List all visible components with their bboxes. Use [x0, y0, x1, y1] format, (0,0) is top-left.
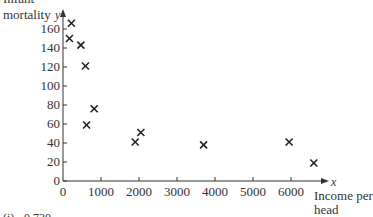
data-point-x-marker-icon: [310, 159, 317, 166]
y-axis-label-line2: mortality: [3, 7, 51, 22]
y-axis-label-line1: Infant: [3, 0, 34, 6]
y-axis-arrow-icon: [60, 9, 66, 17]
y-tick-label: 100: [41, 78, 61, 93]
data-points: [66, 20, 317, 167]
y-tick-label: 140: [41, 40, 61, 55]
y-tick-label: 40: [47, 135, 60, 150]
y-tick-label: 80: [47, 97, 60, 112]
data-point-x-marker-icon: [91, 105, 98, 112]
data-point-x-marker-icon: [200, 141, 207, 148]
axes: [60, 9, 329, 184]
x-tick-label: 5000: [240, 184, 266, 199]
x-tick-label: 2000: [126, 184, 152, 199]
y-tick-label: 160: [41, 21, 61, 36]
x-axis-variable: x: [330, 175, 337, 189]
y-tick-label: 20: [47, 154, 60, 169]
x-tick-label: 3000: [164, 184, 190, 199]
data-point-x-marker-icon: [66, 35, 73, 42]
data-point-x-marker-icon: [83, 121, 90, 128]
x-axis-arrow-icon: [321, 178, 329, 184]
x-tick-label: 0: [60, 184, 67, 199]
y-tick-label: 120: [41, 59, 61, 74]
x-tick-label: 4000: [202, 184, 228, 199]
data-point-x-marker-icon: [77, 42, 84, 49]
footer-note: (i) −0.730: [3, 211, 51, 217]
scatter-chart: Infant mortality y 020406080100120140160…: [0, 0, 373, 217]
data-point-x-marker-icon: [286, 139, 293, 146]
x-axis-label-line1: Income per: [314, 188, 373, 203]
y-axis-variable: y: [54, 8, 61, 22]
data-point-x-marker-icon: [82, 63, 89, 70]
x-tick-label: 1000: [88, 184, 114, 199]
x-ticks: 0100020003000400050006000: [60, 177, 304, 199]
data-point-x-marker-icon: [68, 20, 75, 27]
data-point-x-marker-icon: [132, 139, 139, 146]
x-axis-label-line2: head: [314, 202, 339, 217]
y-tick-label: 60: [47, 116, 60, 131]
data-point-x-marker-icon: [137, 129, 144, 136]
x-tick-label: 6000: [278, 184, 304, 199]
